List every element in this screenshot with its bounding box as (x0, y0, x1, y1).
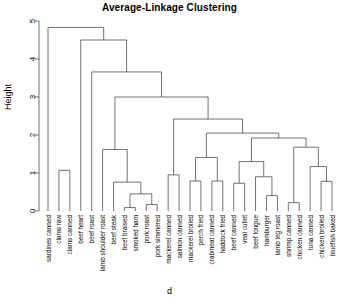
dendrogram-figure: Average-Linkage Clustering Height 012345… (0, 0, 339, 304)
dendrogram-link (288, 203, 299, 211)
dendrogram-link (251, 138, 306, 162)
y-axis-tick-label: 5 (28, 18, 37, 23)
y-axis-tick-label: 4 (28, 56, 37, 61)
leaf-label: beef canned (230, 215, 237, 251)
x-axis-label: d (0, 286, 339, 296)
leaf-label: chicken canned (296, 215, 303, 260)
leaf-label: bluefish baked (329, 215, 336, 257)
dendrogram-link (310, 167, 326, 211)
dendrogram-link (239, 162, 264, 184)
leaf-label: mackerel canned (165, 215, 172, 264)
dendrogram-link (234, 183, 245, 211)
dendrogram-link (168, 175, 179, 211)
dendrogram-plot: 012345sardines cannedclams rawclams cann… (0, 0, 339, 304)
leaf-label: beef braised (121, 215, 128, 251)
dendrogram-link (114, 182, 141, 211)
dendrogram-link (92, 72, 162, 211)
leaf-label: clams canned (66, 215, 73, 255)
dendrogram-link (59, 170, 70, 211)
y-axis-tick-label: 3 (28, 94, 37, 99)
leaf-label: beef tongue (252, 215, 260, 249)
dendrogram-link (115, 97, 208, 149)
dendrogram-link (195, 157, 217, 181)
dendrogram-link (124, 208, 135, 211)
y-axis-tick-label: 2 (28, 132, 37, 137)
dendrogram-link (81, 40, 127, 211)
dendrogram-link (212, 181, 223, 211)
leaf-label: salmon canned (176, 215, 183, 259)
leaf-label: chicken broiled (318, 215, 325, 258)
dendrogram-link (130, 194, 152, 208)
dendrogram-link (206, 133, 278, 157)
leaf-label: hamburger (263, 214, 271, 246)
leaf-label: clams raw (55, 215, 62, 244)
leaf-label: pork roast (143, 215, 151, 244)
leaf-label: beef steak (110, 214, 117, 244)
dendrogram-link (146, 205, 157, 211)
dendrogram-link (256, 177, 272, 211)
dendrogram-link (48, 27, 104, 211)
leaf-label: tuna canned (307, 215, 314, 251)
leaf-label: shrimp canned (285, 215, 293, 257)
dendrogram-link (174, 119, 243, 175)
dendrogram-link (103, 149, 128, 211)
leaf-label: sardines canned (45, 215, 52, 262)
leaf-label: lamb shoulder roast (99, 215, 106, 271)
leaf-label: lamb leg roast (274, 215, 282, 255)
leaf-label: pork simmered (154, 215, 162, 258)
y-axis-tick-label: 0 (28, 208, 37, 213)
leaf-label: smoked ham (132, 215, 139, 252)
leaf-label: beef heart (77, 215, 84, 244)
leaf-label: perch fried (197, 215, 205, 246)
leaf-label: mackerel broiled (187, 215, 194, 262)
dendrogram-link (190, 181, 201, 211)
leaf-label: veal cutlet (241, 215, 248, 244)
dendrogram-link (321, 181, 332, 211)
leaf-label: haddock fried (219, 215, 226, 254)
leaf-label: beef roast (88, 215, 95, 244)
y-axis-tick-label: 1 (28, 170, 37, 175)
dendrogram-link (266, 195, 277, 211)
leaf-label: crabmeat canned (208, 215, 215, 265)
dendrogram-link (294, 147, 319, 202)
